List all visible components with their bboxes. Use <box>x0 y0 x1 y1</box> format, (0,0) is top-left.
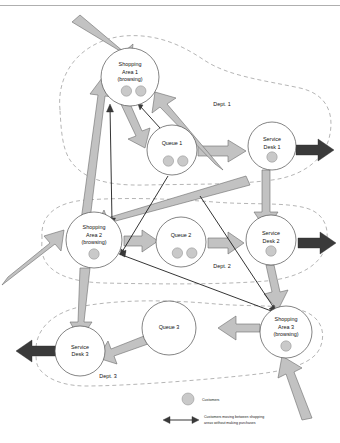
dept-3-label: Dept. 3 <box>99 373 116 379</box>
node-label-shop3-line1: Shopping <box>275 316 298 322</box>
customer-dot <box>172 248 182 258</box>
exit-arrow-service-desk-2 <box>298 232 336 254</box>
customer-dot <box>187 248 197 258</box>
node-circle-queue2[interactable] <box>156 217 206 267</box>
flow-shopping-area-2-to-shopping-area-1 <box>80 78 113 228</box>
legend: Customers Customers moving between shopp… <box>163 393 264 425</box>
node-label-queue1-line1: Queue 1 <box>162 140 183 146</box>
node-label-desk1-line2: Desk 1 <box>264 144 281 150</box>
legend-customer-marker <box>182 393 194 405</box>
node-label-shop2-line1: Shopping <box>83 224 106 230</box>
dept-2-label: Dept. 2 <box>213 263 230 269</box>
legend-browsing-arrow <box>163 417 199 424</box>
node-label-shop3-line3: (browsing) <box>273 331 298 337</box>
customer-dot <box>121 86 131 96</box>
flow-service-desk-2-to-shopping-area-3 <box>264 265 288 310</box>
customer-dot <box>136 86 146 96</box>
flow-queue-3-to-service-desk-3 <box>98 336 148 364</box>
customer-dot <box>281 341 291 351</box>
node-circle-queue1[interactable] <box>147 125 197 175</box>
node-queue2[interactable]: Queue 2 <box>156 217 206 267</box>
store-flow-diagram: ShoppingArea 1(browsing)Queue 1ServiceDe… <box>0 0 340 443</box>
node-desk3[interactable]: ServiceDesk 3 <box>55 326 105 376</box>
legend-browsing-label-line1: Customers moving between shopping <box>204 415 264 419</box>
node-label-shop3-line2: Area 3 <box>278 324 294 330</box>
node-shop1[interactable]: ShoppingArea 1(browsing) <box>101 48 159 106</box>
diagram-canvas: ShoppingArea 1(browsing)Queue 1ServiceDe… <box>0 0 340 443</box>
node-label-shop1-line3: (browsing) <box>117 76 142 82</box>
node-label-shop1-line1: Shopping <box>119 61 142 67</box>
browsing-arrow-shopping1-shopping2 <box>107 104 116 226</box>
node-shop3[interactable]: ShoppingArea 3(browsing) <box>260 306 312 358</box>
flow-shopping-area-3-to-queue-3 <box>218 316 260 340</box>
node-shop2[interactable]: ShoppingArea 2(browsing) <box>66 212 122 268</box>
node-desk1[interactable]: ServiceDesk 1 <box>248 122 296 170</box>
legend-customer-label: Customers <box>202 398 220 402</box>
node-queue3[interactable]: Queue 3 <box>142 301 196 355</box>
node-label-shop2-line2: Area 2 <box>86 232 102 238</box>
node-queue1[interactable]: Queue 1 <box>147 125 197 175</box>
customer-dot <box>267 152 277 162</box>
node-label-desk3-line1: Service <box>71 344 89 350</box>
node-label-desk3-line2: Desk 3 <box>72 351 89 357</box>
node-label-desk2-line1: Service <box>262 230 280 236</box>
customer-dot <box>163 156 173 166</box>
flow-shopping-area-1-to-queue-1 <box>119 99 150 148</box>
node-label-shop1-line2: Area 1 <box>122 69 138 75</box>
node-label-queue3-line1: Queue 3 <box>159 324 180 330</box>
flow-entry-to-shopping-area-2 <box>2 230 64 285</box>
node-label-desk1-line1: Service <box>263 136 281 142</box>
exit-arrow-service-desk-1 <box>296 139 334 161</box>
customer-dot <box>178 156 188 166</box>
node-desk2[interactable]: ServiceDesk 2 <box>246 215 296 265</box>
flow-entry-to-shopping-area-3 <box>278 356 312 420</box>
dept-1-label: Dept. 1 <box>213 101 230 107</box>
legend-browsing-label-line2: areas without making purchases <box>204 421 256 425</box>
node-label-shop2-line3: (browsing) <box>81 239 106 245</box>
node-label-desk2-line2: Desk 2 <box>263 238 280 244</box>
node-label-queue2-line1: Queue 2 <box>171 232 192 238</box>
customer-dot <box>89 249 99 259</box>
customer-dot <box>266 246 276 256</box>
